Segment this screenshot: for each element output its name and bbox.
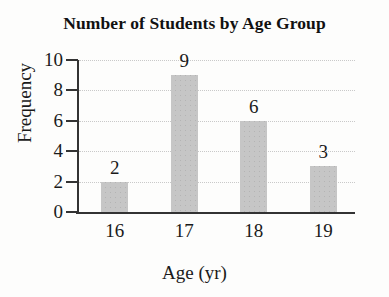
bar-value-label-18: 6 — [224, 96, 284, 118]
tick-mark-2 — [66, 181, 78, 183]
plot-area: 0246810 2963 16171819 — [77, 60, 355, 212]
bar-19 — [310, 166, 337, 212]
tick-mark-6 — [66, 120, 78, 122]
bar-value-label-19: 3 — [293, 141, 353, 163]
x-tick-label-17: 17 — [154, 220, 214, 242]
gridline-10 — [79, 60, 355, 61]
gridline-6 — [79, 121, 355, 122]
bar-18 — [240, 121, 267, 212]
y-tick-label-6: 6 — [54, 109, 64, 131]
y-tick-label-2: 2 — [54, 170, 64, 192]
y-tick-label-4: 4 — [54, 140, 64, 162]
bar-value-label-17: 9 — [154, 50, 214, 72]
gridline-8 — [79, 90, 355, 91]
bar-chart-figure: Number of Students by Age Group Frequenc… — [0, 0, 389, 297]
x-tick-label-16: 16 — [85, 220, 145, 242]
x-tick-label-18: 18 — [224, 220, 284, 242]
chart-title: Number of Students by Age Group — [0, 13, 389, 34]
bar-value-label-16: 2 — [85, 157, 145, 179]
tick-mark-0 — [66, 211, 78, 213]
y-tick-label-0: 0 — [54, 201, 64, 223]
tick-mark-8 — [66, 89, 78, 91]
bar-17 — [171, 75, 198, 212]
tick-mark-4 — [66, 150, 78, 152]
x-axis-title: Age (yr) — [0, 262, 389, 284]
x-axis-line — [76, 212, 355, 214]
tick-mark-10 — [66, 59, 78, 61]
x-tick-label-19: 19 — [293, 220, 353, 242]
bar-16 — [101, 182, 128, 212]
y-axis-line — [77, 60, 79, 213]
y-tick-label-10: 10 — [44, 49, 63, 71]
y-tick-label-8: 8 — [54, 79, 64, 101]
y-axis-title: Frequency — [14, 48, 36, 158]
